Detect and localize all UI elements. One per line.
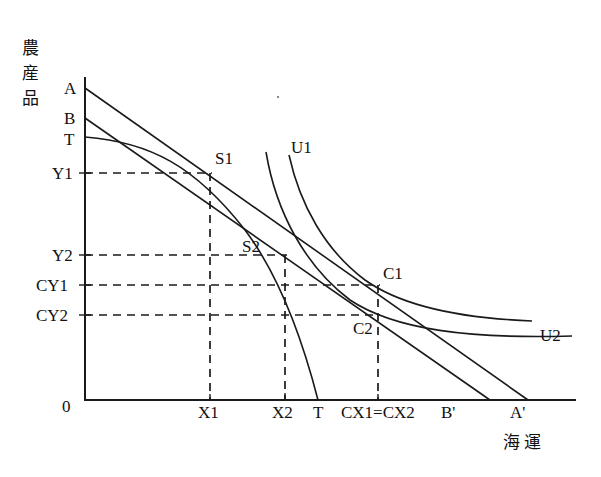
budget-line-b bbox=[85, 118, 490, 400]
point-label-s1: S1 bbox=[215, 150, 233, 167]
y-value-label-y2: Y2 bbox=[52, 247, 73, 264]
x-value-label-x2: X2 bbox=[272, 404, 293, 421]
scan-artifact bbox=[277, 96, 279, 98]
y-intercept-label-b: B bbox=[64, 110, 75, 127]
x-value-label-b-prime: B' bbox=[441, 404, 455, 421]
x-axis-title: 海運 bbox=[503, 432, 545, 454]
y-value-label-cy1: CY1 bbox=[36, 277, 68, 294]
y-intercept-label-t: T bbox=[64, 131, 74, 148]
indifference-curve-u1 bbox=[289, 155, 532, 321]
x-value-label-x1: X1 bbox=[198, 404, 219, 421]
y-axis-title: 農産品 bbox=[18, 28, 38, 124]
y-axis-title-char-1: 農産品 bbox=[18, 28, 40, 124]
origin-label: 0 bbox=[62, 398, 71, 415]
curve-label-u1: U1 bbox=[291, 139, 312, 156]
y-intercept-label-a: A bbox=[64, 80, 76, 97]
point-label-c1: C1 bbox=[383, 265, 403, 282]
point-label-c2: C2 bbox=[353, 320, 373, 337]
y-value-label-cy2: CY2 bbox=[36, 307, 68, 324]
budget-line-a bbox=[85, 88, 528, 400]
x-value-label-cx1-cx2: CX1=CX2 bbox=[341, 404, 415, 421]
diagram-canvas: 農産品 海運 0 A B T Y1 Y2 CY1 CY2 X1 X2 T CX1… bbox=[0, 0, 601, 477]
y-value-label-y1: Y1 bbox=[52, 165, 73, 182]
indifference-curve-u2 bbox=[266, 152, 572, 337]
point-label-s2: S2 bbox=[242, 238, 260, 255]
transformation-curve bbox=[85, 137, 318, 400]
x-value-label-a-prime: A' bbox=[510, 404, 525, 421]
curve-label-u2: U2 bbox=[540, 327, 561, 344]
x-value-label-t: T bbox=[313, 404, 323, 421]
